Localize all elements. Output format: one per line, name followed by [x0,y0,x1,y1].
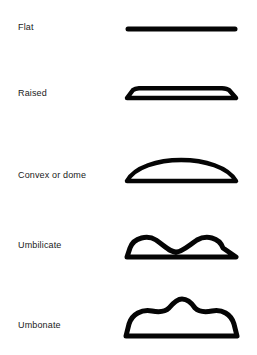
figure-raised [120,66,245,137]
row-label-raised: Raised [18,88,47,98]
row-label-convex: Convex or dome [18,170,86,180]
figure-umbilicate [120,214,245,285]
umbonate-profile-path [126,299,237,336]
diagram-row-convex: Convex or dome [0,140,257,211]
row-label-umbilicate: Umbilicate [18,240,62,250]
umbilicate-profile-path [127,237,236,257]
figure-flat [120,0,245,71]
raised-profile-path [127,88,236,98]
row-label-umbonate: Umbonate [18,320,61,330]
convex-dome-profile-path [127,160,236,181]
diagram-row-flat: Flat [0,0,257,71]
figure-convex [120,140,245,211]
diagram-row-umbilicate: Umbilicate [0,214,257,285]
diagram-row-raised: Raised [0,66,257,137]
figure-umbonate [120,288,245,355]
diagram-row-umbonate: Umbonate [0,288,257,355]
row-label-flat: Flat [18,22,34,32]
colony-elevation-diagram: Flat Raised Convex or dome Umbilicate [0,0,257,355]
